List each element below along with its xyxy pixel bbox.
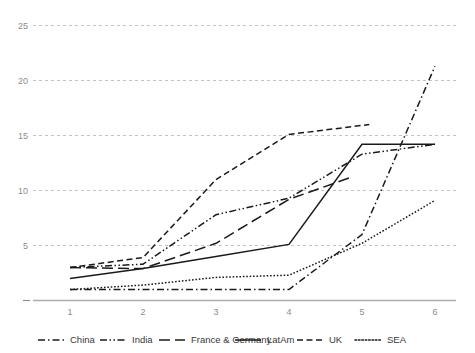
x-tick-label: 5 — [359, 307, 364, 317]
x-tick-label: 6 — [432, 307, 437, 317]
y-tick-label: 15 — [18, 131, 28, 141]
legend-label-uk[interactable]: UK — [329, 334, 343, 345]
y-tick-label: 25 — [18, 21, 28, 31]
legend-label-sea[interactable]: SEA — [387, 334, 407, 345]
gridlines — [33, 26, 456, 246]
legend-label-india[interactable]: India — [132, 334, 153, 345]
x-tick-labels: 123456 — [67, 307, 437, 317]
series-line-china — [70, 66, 435, 289]
series-line-india — [70, 144, 435, 267]
chart-canvas: 510152025 123456 ChinaIndiaFrance & Germ… — [0, 0, 475, 353]
series-line-sea — [70, 200, 435, 289]
legend-label-china[interactable]: China — [70, 334, 96, 345]
chart-legend: ChinaIndiaFrance & GermanyLatAmUKSEA — [38, 334, 407, 345]
line-chart: 510152025 123456 ChinaIndiaFrance & Germ… — [0, 0, 475, 353]
x-tick-label: 2 — [140, 307, 145, 317]
x-tick-label: 1 — [67, 307, 72, 317]
y-tick-label: 20 — [18, 76, 28, 86]
series-line-latam — [70, 144, 435, 278]
x-tick-label: 4 — [286, 307, 291, 317]
legend-label-latam[interactable]: LatAm — [267, 334, 295, 345]
plot-area: 510152025 123456 ChinaIndiaFrance & Germ… — [0, 0, 475, 353]
series-line-france-germany — [70, 177, 351, 268]
series-lines — [70, 66, 435, 289]
y-tick-label: 10 — [18, 186, 28, 196]
y-tick-label: 5 — [23, 241, 28, 251]
y-tick-labels: 510152025 — [18, 21, 28, 251]
x-tick-label: 3 — [213, 307, 218, 317]
